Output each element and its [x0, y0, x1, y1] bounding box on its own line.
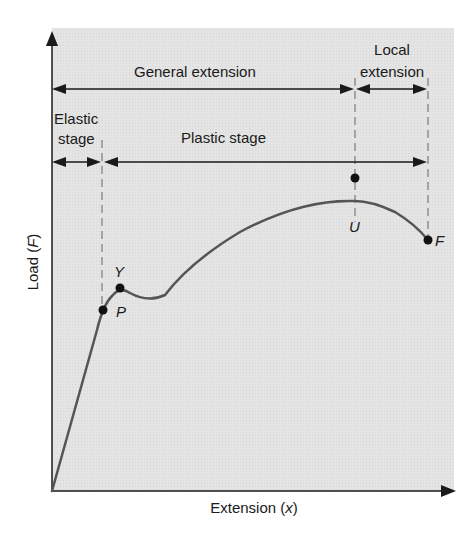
load-extension-diagram: P Y U F General extension Local extensio…	[0, 0, 474, 537]
elastic-stage-label-line2: stage	[58, 130, 95, 147]
point-u-marker	[351, 174, 360, 183]
plastic-stage-label: Plastic stage	[181, 129, 266, 146]
general-extension-label: General extension	[134, 63, 256, 80]
elastic-stage-label-line1: Elastic	[54, 110, 99, 127]
point-p-label: P	[116, 303, 126, 320]
point-f-label: F	[435, 232, 445, 249]
y-axis-label: Load (F)	[24, 234, 41, 291]
point-u-label: U	[349, 218, 360, 235]
local-extension-label-line2: extension	[360, 63, 424, 80]
plot-background	[52, 28, 454, 491]
x-axis-label: Extension (x)	[210, 499, 298, 516]
point-p-marker	[99, 306, 108, 315]
local-extension-label-line1: Local	[374, 41, 410, 58]
point-f-marker	[424, 236, 433, 245]
point-y-marker	[116, 284, 125, 293]
point-y-label: Y	[114, 263, 125, 280]
